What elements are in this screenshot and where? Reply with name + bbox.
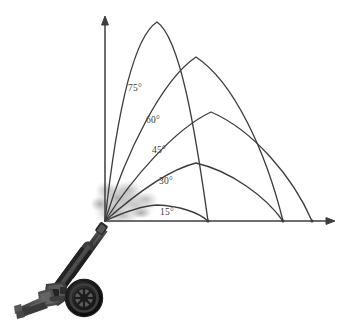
gun-wheel <box>66 280 103 317</box>
angle-label-45: 45° <box>152 146 166 156</box>
howitzer-artillery-gun <box>14 221 108 319</box>
height-axis-arrowhead <box>102 16 109 25</box>
landing-marker-60 <box>281 219 284 222</box>
angle-label-30: 30° <box>159 177 173 187</box>
angle-label-60: 60° <box>146 116 160 126</box>
angle-label-15: 15° <box>160 208 174 218</box>
projectile-diagram-canvas <box>0 0 355 322</box>
range-axis-arrowhead <box>326 218 335 225</box>
gun-trail-legs <box>14 296 48 319</box>
landing-marker-75 <box>206 219 209 222</box>
projectile-motion-figure: 75° 60° 45° 30° 15° <box>0 0 355 322</box>
landing-marker-45 <box>310 219 313 222</box>
angle-label-75: 75° <box>128 84 142 94</box>
